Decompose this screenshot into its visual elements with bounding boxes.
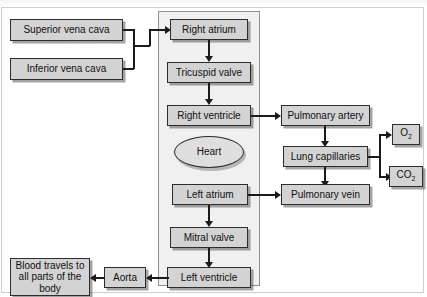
- edge-rv-to-pa: [251, 115, 277, 117]
- node-superior-vena-cava-label: Superior vena cava: [23, 24, 109, 36]
- scan-header-strip: [0, 0, 427, 7]
- node-carbon-dioxide[interactable]: CO2: [389, 166, 423, 187]
- node-left-atrium-label: Left atrium: [186, 189, 233, 201]
- node-right-atrium[interactable]: Right atrium: [170, 19, 248, 40]
- node-heart[interactable]: Heart: [174, 136, 244, 168]
- node-pulmonary-artery[interactable]: Pulmonary artery: [281, 105, 370, 126]
- edge-aorta-to-body: [96, 277, 105, 279]
- node-right-ventricle[interactable]: Right ventricle: [167, 105, 251, 126]
- node-mitral-valve[interactable]: Mitral valve: [170, 227, 248, 248]
- node-body-label: Blood travels to all parts of the body: [13, 260, 87, 295]
- node-inferior-vena-cava-label: Inferior vena cava: [27, 63, 107, 75]
- node-inferior-vena-cava[interactable]: Inferior vena cava: [10, 58, 123, 80]
- edge-svc-join: [133, 45, 150, 47]
- edge-merge-to-ra: [149, 29, 166, 31]
- node-mitral-valve-label: Mitral valve: [184, 232, 235, 244]
- node-tricuspid-valve-label: Tricuspid valve: [176, 67, 242, 79]
- node-aorta-label: Aorta: [113, 272, 137, 284]
- edge-merge-riser: [149, 29, 151, 46]
- arrowhead-to-body: [90, 274, 96, 282]
- node-superior-vena-cava[interactable]: Superior vena cava: [10, 19, 123, 41]
- node-pulmonary-artery-label: Pulmonary artery: [287, 110, 363, 122]
- node-right-ventricle-label: Right ventricle: [177, 110, 240, 122]
- node-lung-capillaries-label: Lung capillaries: [291, 151, 361, 163]
- node-aorta[interactable]: Aorta: [104, 267, 146, 288]
- node-carbon-dioxide-label: CO2: [397, 169, 416, 185]
- node-pulmonary-vein[interactable]: Pulmonary vein: [281, 184, 370, 205]
- node-left-ventricle-label: Left ventricle: [181, 272, 238, 284]
- diagram-canvas: Superior vena cava Inferior vena cava Ri…: [0, 0, 427, 297]
- edge-la-to-pv: [248, 194, 277, 196]
- edge-lv-to-aorta: [152, 277, 169, 279]
- arrowhead-to-aorta: [146, 274, 152, 282]
- edge-lc-fork-riser: [379, 134, 381, 178]
- edge-ivc-up: [133, 45, 135, 69]
- node-pulmonary-vein-label: Pulmonary vein: [291, 189, 360, 201]
- node-right-atrium-label: Right atrium: [182, 24, 236, 36]
- node-lung-capillaries[interactable]: Lung capillaries: [283, 146, 368, 167]
- node-oxygen[interactable]: O2: [392, 124, 420, 145]
- edge-svc-down: [133, 29, 135, 46]
- node-left-atrium[interactable]: Left atrium: [172, 184, 248, 205]
- node-oxygen-label: O2: [400, 127, 412, 143]
- node-heart-label: Heart: [197, 146, 221, 158]
- node-body[interactable]: Blood travels to all parts of the body: [10, 258, 90, 296]
- node-left-ventricle[interactable]: Left ventricle: [167, 267, 251, 288]
- node-tricuspid-valve[interactable]: Tricuspid valve: [167, 62, 251, 83]
